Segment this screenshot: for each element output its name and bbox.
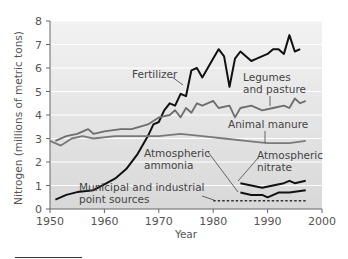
y-tick-label: 3 xyxy=(35,133,42,146)
label-municipal-line2: point sources xyxy=(79,193,149,205)
y-tick-label: 7 xyxy=(35,39,42,52)
label-nitrate-line1: Atmospheric xyxy=(257,149,323,161)
y-tick-label: 4 xyxy=(35,109,42,122)
y-tick-label: 2 xyxy=(35,156,42,169)
label-animal-manure: Animal manure xyxy=(228,118,308,130)
x-tick-label: 1960 xyxy=(90,215,118,228)
x-tick-label: 1950 xyxy=(36,215,64,228)
label-fertilizer: Fertilizer xyxy=(132,68,178,80)
y-tick-label: 8 xyxy=(35,15,42,28)
label-municipal-line1: Municipal and industrial xyxy=(79,181,205,193)
y-tick-label: 6 xyxy=(35,62,42,75)
x-tick-label: 1970 xyxy=(145,215,173,228)
y-tick-label: 5 xyxy=(35,86,42,99)
label-nitrate-line2: nitrate xyxy=(257,161,292,173)
x-tick-label: 1980 xyxy=(199,215,227,228)
nitrogen-sources-chart: 012345678195019601970198019902000 Fertil… xyxy=(0,0,348,259)
footnote-rule xyxy=(15,257,82,258)
y-tick-label: 1 xyxy=(35,180,42,193)
label-legumes-line1: Legumes xyxy=(243,71,291,83)
label-ammonia-line1: Atmospheric xyxy=(144,147,210,159)
label-ammonia-line2: ammonia xyxy=(144,159,193,171)
label-legumes-line2: and pasture xyxy=(243,83,306,95)
y-axis-title: Nitrogen (millions of metric tons) xyxy=(12,31,24,205)
x-tick-label: 2000 xyxy=(308,215,336,228)
x-axis-title: Year xyxy=(174,228,198,240)
x-tick-label: 1990 xyxy=(254,215,282,228)
